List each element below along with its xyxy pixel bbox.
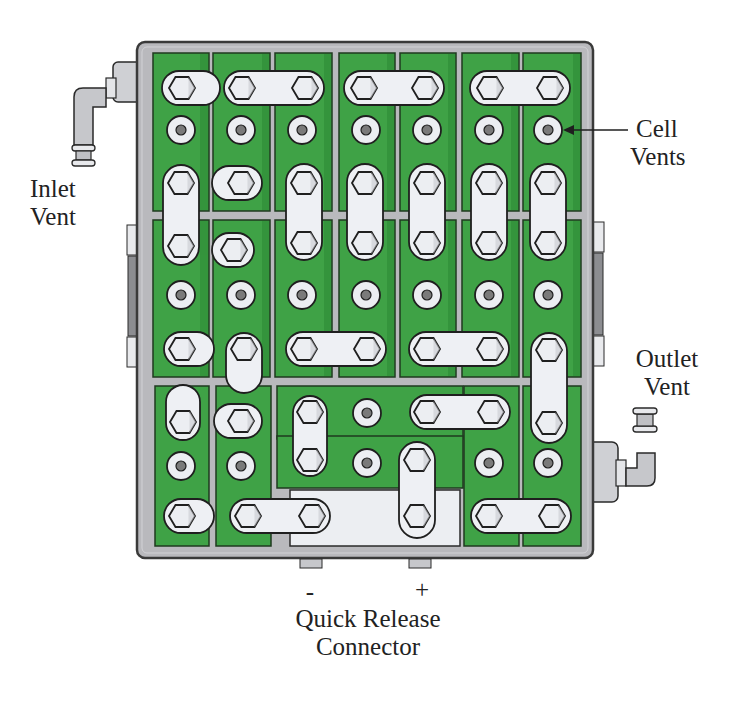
inlet-vent	[72, 62, 143, 166]
inlet-vent-label-line2: Vent	[30, 203, 105, 231]
quick-release-connector-label: Quick Release Connector	[268, 605, 468, 661]
inlet-vent-label-line1: Inlet	[30, 175, 105, 203]
cell-vents-pointer	[563, 125, 628, 135]
plus-terminal-label: +	[410, 576, 434, 604]
quick-release-pins	[300, 559, 431, 568]
cell-vents-label-line1: Cell	[630, 115, 710, 143]
inlet-vent-label: Inlet Vent	[30, 175, 105, 231]
connector-label-line2: Connector	[268, 633, 468, 661]
outlet-vent-label: Outlet Vent	[622, 345, 712, 401]
cell-vents-label-line2: Vents	[630, 143, 710, 171]
minus-terminal-label: -	[300, 578, 320, 606]
outlet-vent-label-line1: Outlet	[622, 345, 712, 373]
outlet-vent	[588, 408, 657, 502]
outlet-vent-label-line2: Vent	[622, 373, 712, 401]
cell-vents-label: Cell Vents	[630, 115, 710, 171]
connector-label-line1: Quick Release	[268, 605, 468, 633]
